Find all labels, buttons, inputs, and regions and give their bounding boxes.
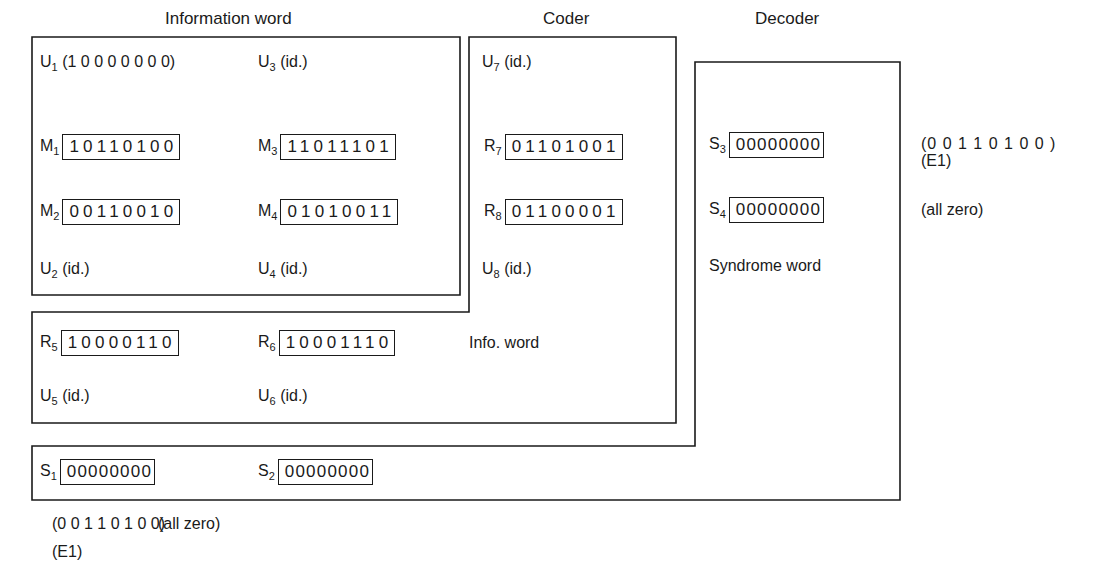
s1-note: (0 0 1 1 0 1 0 0) [52,515,165,533]
register-r8: R8 01100001 [484,199,623,225]
coder-title: Coder [543,9,589,29]
register-r5: R5 10000110 [40,330,179,356]
m4-bits: 01010011 [280,199,398,225]
register-s4: S4 00000000 [709,197,824,223]
m2-bits: 00110010 [62,199,180,225]
u5-label: U5 (id.) [40,387,90,407]
register-s3: S3 00000000 [709,132,824,158]
register-m3: M3 11011101 [258,134,396,160]
s2-note: (all zero) [158,515,220,533]
s4-bits: 00000000 [729,197,824,223]
register-m4: M4 01010011 [258,199,398,225]
register-m2: M2 00110010 [40,199,180,225]
s4-note: (all zero) [921,201,983,219]
r6-bits: 10001110 [279,330,396,356]
r7-bits: 01101001 [505,134,623,160]
m1-bits: 10110100 [62,134,180,160]
s2-bits: 00000000 [278,459,373,485]
coder-frame [32,37,676,423]
u2-label: U2 (id.) [40,260,90,280]
block-frames [0,0,1106,571]
syndrome-word-label: Syndrome word [709,257,821,275]
s3-note: (0 0 1 1 0 1 0 0 ) [921,135,1056,153]
r8-bits: 01100001 [505,199,623,225]
register-r6: R6 10001110 [258,330,395,356]
register-s1: S1 00000000 [40,459,155,485]
decoder-title: Decoder [755,9,819,29]
register-s2: S2 00000000 [258,459,373,485]
u6-label: U6 (id.) [258,387,308,407]
information-word-frame [32,37,460,295]
u3-label: U3 (id.) [258,53,308,73]
u8-label: U8 (id.) [482,260,532,280]
u7-label: U7 (id.) [482,53,532,73]
s3-note-e1: (E1) [921,152,951,170]
register-m1: M1 10110100 [40,134,180,160]
u1-label: U1 (1 0 0 0 0 0 0 0) [40,53,175,73]
s1-note-e1: (E1) [52,543,82,561]
info-word-label: Info. word [469,334,539,352]
m3-bits: 11011101 [280,134,395,160]
s1-bits: 00000000 [60,459,155,485]
register-r7: R7 01101001 [484,134,623,160]
decoder-frame [32,62,900,500]
information-word-title: Information word [165,9,292,29]
u4-label: U4 (id.) [258,260,308,280]
s3-bits: 00000000 [729,132,824,158]
r5-bits: 10000110 [61,330,179,356]
